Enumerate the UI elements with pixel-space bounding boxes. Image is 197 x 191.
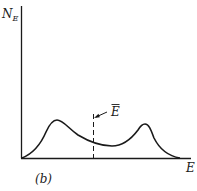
x-axis-label: E — [185, 161, 195, 175]
figure-canvas: NE E E (b) — [0, 0, 197, 191]
mean-label: E — [110, 105, 120, 119]
y-axis-label: NE — [1, 7, 19, 23]
arrowhead-icon — [94, 114, 100, 118]
panel-label: (b) — [35, 172, 52, 186]
distribution-curve — [22, 120, 180, 158]
